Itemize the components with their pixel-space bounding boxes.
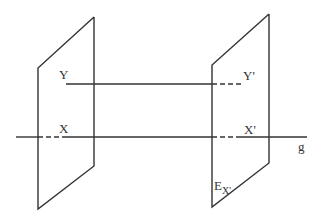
left-plane: [38, 17, 94, 209]
label-y-prime: Y': [243, 68, 255, 83]
label-x: X: [59, 121, 69, 136]
label-e-base: E: [214, 178, 222, 193]
label-e-subscript: X': [222, 185, 231, 196]
label-x-prime: X': [244, 122, 256, 137]
diagram-canvas: Y Y' X X' g EX': [0, 0, 324, 223]
label-y: Y: [59, 67, 69, 82]
label-g: g: [298, 139, 305, 154]
label-e-x-prime: EX': [214, 178, 231, 196]
